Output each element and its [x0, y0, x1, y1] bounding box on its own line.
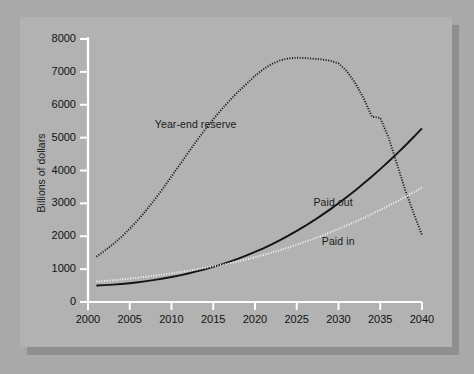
series-label-paid-out: Paid out: [313, 196, 352, 208]
y-tick-label: 2000: [30, 229, 76, 241]
x-tick-label: 2030: [319, 313, 359, 325]
y-tick-label: 3000: [30, 196, 76, 208]
x-tick-label: 2035: [360, 313, 400, 325]
chart-plot-area: [20, 17, 452, 347]
x-tick-label: 2000: [68, 313, 108, 325]
x-tick-label: 2010: [152, 313, 192, 325]
chart-panel: Billions of dollars 01000200030004000500…: [20, 17, 452, 347]
y-tick-label: 7000: [30, 65, 76, 77]
x-tick-label: 2025: [277, 313, 317, 325]
x-tick-label: 2005: [110, 313, 150, 325]
series-line-paid-out: [96, 128, 422, 285]
x-tick-label: 2040: [402, 313, 442, 325]
y-tick-label: 1000: [30, 262, 76, 274]
y-tick-label: 6000: [30, 98, 76, 110]
series-label-paid-in: Paid in: [322, 235, 355, 247]
y-tick-label: 0: [30, 295, 76, 307]
series-group: [96, 58, 422, 286]
series-line-paid-in: [96, 188, 422, 282]
series-label-year-end-reserve: Year-end reserve: [155, 118, 237, 130]
y-tick-label: 4000: [30, 164, 76, 176]
x-tick-label: 2020: [235, 313, 275, 325]
x-tick-label: 2015: [193, 313, 233, 325]
y-tick-label: 8000: [30, 32, 76, 44]
axes-group: [80, 37, 422, 310]
series-line-year-end-reserve: [96, 58, 422, 257]
y-tick-label: 5000: [30, 131, 76, 143]
